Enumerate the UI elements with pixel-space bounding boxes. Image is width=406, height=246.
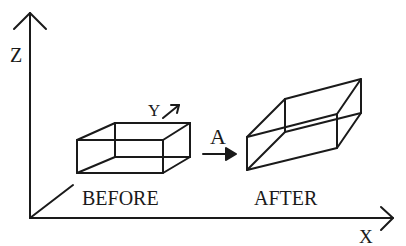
y-axis-label: Y xyxy=(148,101,160,120)
y-axis xyxy=(30,185,73,218)
y-direction-arrow-icon xyxy=(163,105,179,118)
shear-diagram: Z Y X A BEFORE AFTER xyxy=(0,0,406,246)
after-box xyxy=(247,79,361,170)
before-box xyxy=(77,123,190,173)
transform-label: A xyxy=(210,124,226,149)
x-axis xyxy=(30,207,393,230)
x-axis-label: X xyxy=(359,226,373,246)
transform-arrow-icon xyxy=(203,148,236,160)
z-axis-label: Z xyxy=(10,44,22,66)
after-label: AFTER xyxy=(254,187,318,209)
before-label: BEFORE xyxy=(82,187,159,209)
